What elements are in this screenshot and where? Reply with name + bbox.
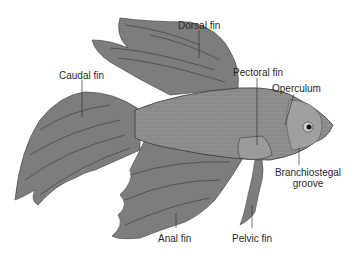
betta-fish-illustration: [0, 0, 350, 259]
label-branchiostegal-groove: Branchiostegal groove: [268, 167, 348, 189]
label-dorsal-fin: Dorsal fin: [178, 20, 220, 31]
label-branchiostegal-line1: Branchiostegal: [268, 167, 348, 178]
label-pectoral-fin: Pectoral fin: [233, 67, 283, 78]
label-operculum: Operculum: [272, 83, 321, 94]
label-branchiostegal-line2: groove: [268, 178, 348, 189]
fish-anatomy-diagram: Caudal fin Dorsal fin Pectoral fin Operc…: [0, 0, 350, 259]
label-anal-fin: Anal fin: [158, 233, 191, 244]
label-pelvic-fin: Pelvic fin: [232, 233, 272, 244]
pelvic-fin-shape: [240, 160, 263, 225]
label-caudal-fin: Caudal fin: [59, 70, 104, 81]
caudal-fin-shape: [15, 92, 140, 205]
